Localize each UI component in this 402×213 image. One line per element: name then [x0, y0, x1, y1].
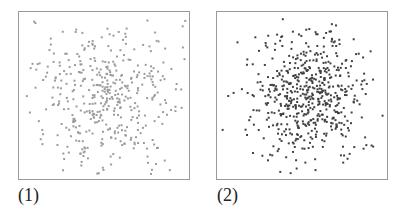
data-point [113, 114, 115, 116]
data-point [286, 96, 288, 98]
data-point [93, 48, 95, 50]
data-point [290, 48, 292, 50]
data-point [339, 75, 341, 77]
data-point [300, 85, 302, 87]
data-point [303, 54, 305, 56]
data-point [310, 80, 312, 82]
data-point [138, 114, 140, 116]
data-point [361, 80, 363, 82]
data-point [271, 154, 273, 156]
data-point [126, 126, 128, 128]
data-point [323, 84, 325, 86]
data-point [75, 31, 77, 33]
data-point [110, 49, 112, 51]
data-point [102, 81, 104, 83]
data-point [344, 91, 346, 93]
data-point [41, 143, 43, 145]
data-point [266, 119, 268, 121]
data-point [83, 155, 85, 157]
data-point [144, 115, 146, 117]
data-point [117, 114, 119, 116]
data-point [294, 90, 296, 92]
data-point [272, 84, 274, 86]
data-point [90, 58, 92, 60]
data-point [108, 105, 110, 107]
data-point [154, 32, 156, 34]
data-point [365, 93, 367, 95]
data-point [260, 81, 262, 83]
data-point [109, 98, 111, 100]
data-point [277, 75, 279, 77]
data-point [338, 69, 340, 71]
data-point [285, 128, 287, 130]
data-point [274, 43, 276, 45]
data-point [325, 62, 327, 64]
scatter-plot-1 [19, 12, 189, 179]
data-point [141, 84, 143, 86]
data-point [71, 114, 73, 116]
data-point [335, 52, 337, 54]
data-point [113, 110, 115, 112]
data-point [35, 87, 37, 89]
data-point [121, 129, 123, 131]
data-point [282, 88, 284, 90]
data-point [182, 46, 184, 48]
data-point [363, 148, 365, 150]
data-point [93, 117, 95, 119]
data-point [306, 97, 308, 99]
data-point [98, 71, 100, 73]
data-point [288, 55, 290, 57]
data-point [281, 70, 283, 72]
data-point [338, 122, 340, 124]
data-point [336, 126, 338, 128]
data-point [236, 41, 238, 43]
data-point [101, 119, 103, 121]
data-point [105, 101, 107, 103]
data-point [292, 56, 294, 58]
data-point [32, 63, 34, 65]
data-point [315, 124, 317, 126]
data-point [325, 32, 327, 34]
data-point [108, 62, 110, 64]
data-point [293, 116, 295, 118]
data-point [346, 120, 348, 122]
data-point [114, 94, 116, 96]
data-point [107, 89, 109, 91]
data-point [75, 29, 77, 31]
data-point [138, 110, 140, 112]
data-point [324, 100, 326, 102]
data-point [289, 115, 291, 117]
data-point [91, 43, 93, 45]
data-point [285, 134, 287, 136]
data-point [330, 30, 332, 32]
data-point [335, 92, 337, 94]
data-point [306, 77, 308, 79]
data-point [318, 67, 320, 69]
data-point [166, 114, 168, 116]
data-point [297, 57, 299, 59]
data-point [333, 96, 335, 98]
data-point [303, 148, 305, 150]
data-point [112, 82, 114, 84]
data-point [274, 101, 276, 103]
data-point [57, 104, 59, 106]
data-point [296, 116, 298, 118]
data-point [320, 53, 322, 55]
data-point [326, 55, 328, 57]
data-point [94, 60, 96, 62]
data-point [137, 74, 139, 76]
data-point [174, 106, 176, 108]
data-point [311, 102, 313, 104]
data-point [128, 59, 130, 61]
data-point [302, 104, 304, 106]
data-point [341, 122, 343, 124]
data-point [319, 88, 321, 90]
scatter-panel-2 [216, 11, 388, 180]
data-point [326, 116, 328, 118]
data-point [82, 95, 84, 97]
data-point [332, 86, 334, 88]
data-point [60, 80, 62, 82]
data-point [256, 109, 258, 111]
data-point [329, 62, 331, 64]
data-point [297, 67, 299, 69]
